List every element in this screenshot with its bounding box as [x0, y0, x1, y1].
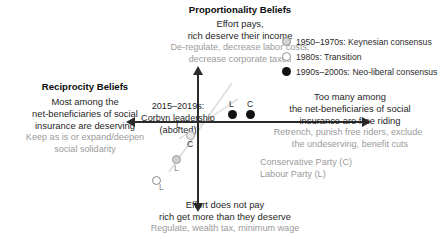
legend-item-neoliberal: 1990s–2000s: Neo-liberal consensus [282, 64, 437, 79]
filled-circle-icon [282, 67, 291, 76]
half-filled-circle-icon [282, 37, 291, 46]
party-key-labour: Labour Party (L) [260, 169, 430, 180]
point-neoliberal-labour [228, 110, 237, 119]
right-statement-line-2: the net-beneficiaries of social [258, 103, 442, 114]
hollow-circle-icon [282, 52, 291, 61]
point-label-keynesian-conservative: C [187, 139, 193, 149]
bottom-statement-line-2: rich get more than they deserve [125, 211, 325, 222]
point-label-keynesian-labour: L [176, 120, 181, 130]
legend-item-transition: 1980s: Transition [282, 49, 437, 64]
legend-item-keynesian: 1950–1970s: Keynesian consensus [282, 34, 437, 49]
corbyn-annotation-line-1: 2015–2019s: [128, 101, 228, 112]
party-key-conservative: Conservative Party (C) [260, 157, 430, 168]
right-policy-line-2: the undeserving, benefit cuts [258, 139, 442, 150]
legend-label-transition: 1980s: Transition [296, 52, 361, 62]
right-policy-line-1: Retrench, punish free riders, exclude [252, 127, 444, 138]
vertical-axis [197, 74, 199, 206]
diagram-canvas: Proportionality Beliefs Effort pays, ric… [0, 0, 444, 239]
bottom-statement-line-1: Effort does not pay [135, 199, 315, 210]
point-neoliberal-conservative [246, 110, 255, 119]
proportionality-beliefs-heading: Proportionality Beliefs [155, 4, 325, 16]
axis-arrow-up-icon [193, 66, 203, 75]
reciprocity-beliefs-heading: Reciprocity Beliefs [10, 81, 160, 93]
right-statement-line-3: insurance are free riding [262, 115, 438, 126]
point-label-corbyn-labour: L [174, 163, 179, 173]
legend-label-neoliberal: 1990s–2000s: Neo-liberal consensus [296, 67, 437, 77]
legend-label-keynesian: 1950–1970s: Keynesian consensus [296, 37, 432, 47]
legend: 1950–1970s: Keynesian consensus 1980s: T… [282, 34, 437, 79]
bottom-policy-line-1: Regulate, wealth tax, minimum wage [122, 223, 328, 234]
left-policy-line-2: social solidarity [6, 144, 164, 155]
point-label-neoliberal-labour: L [229, 99, 234, 109]
point-label-neoliberal-conservative: C [247, 99, 253, 109]
top-statement-line-1: Effort pays, [155, 18, 325, 29]
right-statement-line-1: Too many among [262, 91, 438, 102]
point-label-transition-labour: L [159, 182, 164, 192]
